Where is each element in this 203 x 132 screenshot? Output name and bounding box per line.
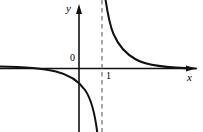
origin-label: 0 [70, 53, 75, 63]
y-axis-arrowhead [76, 4, 82, 14]
curve-right-branch [106, 0, 196, 68]
curve-left-branch [0, 66, 97, 132]
hyperbola-figure: y x 0 1 [0, 0, 203, 132]
x-axis-label: x [187, 72, 192, 83]
x-tick-label-1: 1 [106, 71, 111, 81]
graph-canvas [0, 0, 203, 132]
y-axis-label: y [66, 3, 71, 14]
